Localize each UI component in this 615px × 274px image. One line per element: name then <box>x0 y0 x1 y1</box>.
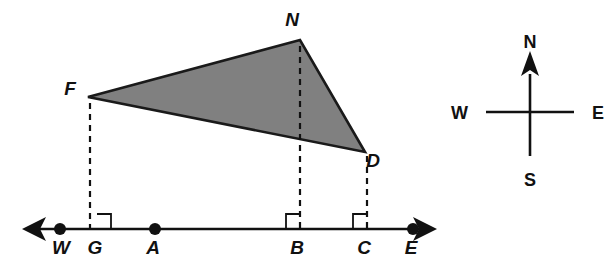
right-angle-marker-b <box>286 214 300 228</box>
compass-north-arrow-icon <box>521 51 539 76</box>
point-label-a: A <box>145 237 160 258</box>
point-dot-a <box>149 223 161 235</box>
vertex-label-n: N <box>285 9 300 30</box>
compass-label-south: S <box>524 170 536 190</box>
point-label-c: C <box>357 237 371 258</box>
compass-rose-group <box>486 51 574 156</box>
point-label-g: G <box>88 237 103 258</box>
vertex-label-d: D <box>366 150 380 171</box>
triangle-fnd-shape <box>88 40 365 152</box>
point-dot-e <box>407 223 419 235</box>
geometry-figure: W G A B C E F N D N S E W <box>0 0 615 274</box>
compass-label-east: E <box>592 103 604 123</box>
right-angle-marker-g <box>97 214 111 228</box>
compass-label-north: N <box>524 32 537 52</box>
point-label-w: W <box>52 237 72 258</box>
diagram-canvas: W G A B C E F N D N S E W <box>0 0 615 274</box>
right-angle-marker-c <box>353 214 367 228</box>
point-label-e: E <box>405 237 419 258</box>
compass-label-west: W <box>451 103 468 123</box>
point-dot-w <box>54 223 66 235</box>
point-label-b: B <box>290 237 304 258</box>
vertex-label-f: F <box>64 78 77 99</box>
